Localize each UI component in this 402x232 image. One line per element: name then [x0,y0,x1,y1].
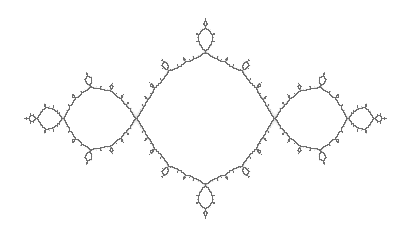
julia-set-fractal-image [0,0,402,232]
